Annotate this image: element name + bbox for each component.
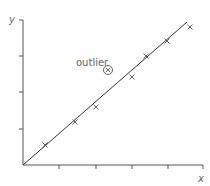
outlier-label: outlier [76, 57, 109, 68]
data-points [43, 25, 193, 148]
y-axis-label: y [8, 14, 16, 25]
x-ticks [59, 165, 203, 169]
point-marker [43, 143, 48, 148]
best-fit-line [23, 22, 187, 165]
y-ticks [19, 20, 23, 129]
x-axis-label: x [197, 173, 204, 184]
point-marker [94, 105, 99, 110]
point-marker [188, 25, 193, 30]
scatter-plot: y x outlier [0, 0, 210, 186]
point-marker [130, 75, 135, 80]
